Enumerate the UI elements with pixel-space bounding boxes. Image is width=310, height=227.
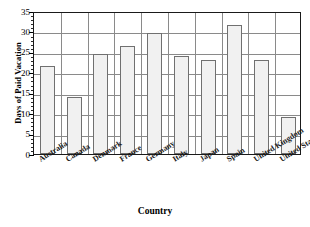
bar bbox=[147, 33, 162, 154]
gridline-vertical bbox=[88, 13, 89, 154]
bar bbox=[201, 60, 216, 154]
gridline-vertical bbox=[168, 13, 169, 154]
gridline-vertical bbox=[61, 13, 62, 154]
gridline-vertical bbox=[222, 13, 223, 154]
bar bbox=[93, 54, 108, 154]
gridline-vertical bbox=[114, 13, 115, 154]
gridline-horizontal bbox=[34, 54, 300, 55]
x-axis-tick-labels: AustraliaCanadaDenmarkFranceGermanyItaly… bbox=[33, 156, 301, 212]
gridline-vertical bbox=[141, 13, 142, 154]
bar bbox=[120, 46, 135, 154]
bar bbox=[254, 60, 269, 154]
gridline-vertical bbox=[195, 13, 196, 154]
bar bbox=[174, 56, 189, 154]
bar bbox=[227, 25, 242, 154]
gridline-vertical bbox=[275, 13, 276, 154]
gridline-horizontal bbox=[34, 33, 300, 34]
bar bbox=[40, 66, 55, 154]
x-axis-title: Country bbox=[0, 206, 310, 216]
plot-area bbox=[33, 12, 301, 155]
gridline-vertical bbox=[248, 13, 249, 154]
bar-chart: Days of Paid Vacation 05101520253035 Aus… bbox=[0, 0, 310, 227]
